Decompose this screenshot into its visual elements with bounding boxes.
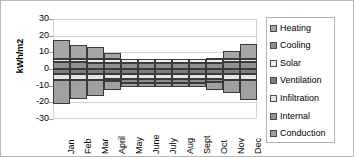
bar-segment [223, 62, 240, 69]
bar-segment [104, 53, 121, 59]
x-axis-tick-label: July [168, 138, 178, 154]
legend-swatch-icon [270, 77, 277, 84]
bar-segment [189, 83, 206, 87]
y-axis-tick-mark [49, 119, 53, 120]
legend-item[interactable]: Internal [270, 110, 310, 122]
y-axis-tick-mark [49, 69, 53, 70]
y-axis-tick-label: -10 [3, 81, 49, 90]
bar-segment [104, 59, 121, 63]
bar-segment [223, 59, 240, 62]
legend-swatch-icon [270, 113, 277, 120]
legend-swatch-icon [270, 60, 277, 67]
y-axis-tick-mark [49, 102, 53, 103]
x-axis-tick-label: June [151, 134, 161, 154]
legend-item[interactable]: Solar [270, 57, 301, 69]
gridline [53, 36, 257, 37]
y-axis-tick-mark [49, 19, 53, 20]
bar-segment [87, 47, 104, 59]
x-axis-tick-label: Nov [236, 138, 246, 154]
y-axis-tick-label: 10 [3, 47, 49, 56]
bar-segment [138, 83, 155, 87]
y-axis-tick-label: 30 [3, 14, 49, 23]
bar-segment [206, 82, 223, 90]
bar-segment [240, 62, 257, 70]
legend-item[interactable]: Cooling [270, 40, 311, 52]
chart-figure: kWh/m2 3020100-10-20-30 HeatingCoolingSo… [0, 0, 354, 157]
bar-segment [70, 80, 87, 99]
bar-segment [53, 59, 70, 62]
legend-swatch-icon [270, 130, 277, 137]
legend-label: Solar [280, 59, 301, 68]
x-axis-tick-label: Sept [202, 135, 212, 154]
legend-swatch-icon [270, 95, 277, 102]
bar-segment [155, 59, 172, 63]
x-axis-tick-label: Aug [185, 138, 195, 154]
bar-segment [87, 59, 104, 63]
bar-segment [53, 80, 70, 104]
bar-segment [189, 59, 206, 63]
bar-segment [121, 59, 138, 63]
legend-label: Conduction [280, 129, 326, 138]
bar-segment [223, 80, 240, 93]
legend-label: Infiltration [280, 94, 319, 103]
bar-segment [172, 59, 189, 63]
legend-swatch-icon [270, 25, 277, 32]
y-axis-tick-label: -30 [3, 114, 49, 123]
bar-segment [138, 59, 155, 63]
legend-item[interactable]: Infiltration [270, 92, 319, 104]
bar-segment [70, 45, 87, 59]
y-axis: 3020100-10-20-30 [1, 1, 49, 157]
legend-label: Internal [280, 112, 310, 121]
bar-segment [53, 62, 70, 70]
x-axis-tick-label: Dec [253, 138, 263, 154]
x-axis-tick-label: Oct [219, 140, 229, 154]
bar-segment [240, 59, 257, 62]
y-axis-tick-label: 20 [3, 31, 49, 40]
bar-segment [155, 83, 172, 87]
legend-label: Cooling [280, 41, 311, 50]
bar-segment [223, 51, 240, 59]
bar-segment [240, 44, 257, 59]
x-axis-tick-label: Feb [83, 138, 93, 154]
y-axis-tick-mark [49, 52, 53, 53]
y-axis-tick-mark [49, 86, 53, 87]
bar-segment [121, 83, 138, 87]
chart-legend: HeatingCoolingSolarVentilationInfiltrati… [266, 17, 335, 143]
legend-item[interactable]: Ventilation [270, 75, 322, 87]
legend-item[interactable]: Conduction [270, 128, 326, 140]
legend-label: Ventilation [280, 76, 322, 85]
bar-segment [70, 59, 87, 62]
x-axis-tick-label: Jan [66, 139, 76, 154]
y-axis-tick-label: -20 [3, 97, 49, 106]
bar-segment [87, 80, 104, 97]
legend-item[interactable]: Heating [270, 22, 311, 34]
legend-label: Heating [280, 24, 311, 33]
bar-segment [172, 83, 189, 87]
bar-segment [70, 62, 87, 69]
gridline [53, 102, 257, 103]
bar-segment [206, 58, 223, 60]
legend-swatch-icon [270, 42, 277, 49]
x-axis-tick-label: May [134, 137, 144, 154]
plot-area [53, 19, 257, 119]
y-axis-tick-mark [49, 36, 53, 37]
bar-segment [104, 81, 121, 90]
x-axis-tick-label: Mar [100, 139, 110, 155]
x-axis-tick-label: April [117, 136, 127, 154]
bar-segment [240, 80, 257, 100]
bar-segment [53, 40, 70, 59]
y-axis-tick-label: 0 [3, 64, 49, 73]
